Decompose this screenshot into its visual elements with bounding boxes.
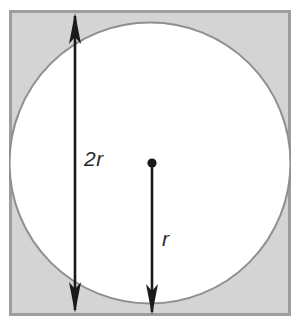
geometry-canvas [0, 0, 298, 329]
circle-center-dot [147, 158, 156, 167]
diameter-label: 2r [84, 148, 104, 169]
geometry-figure: 2r r [0, 0, 298, 329]
radius-label: r [162, 228, 169, 249]
